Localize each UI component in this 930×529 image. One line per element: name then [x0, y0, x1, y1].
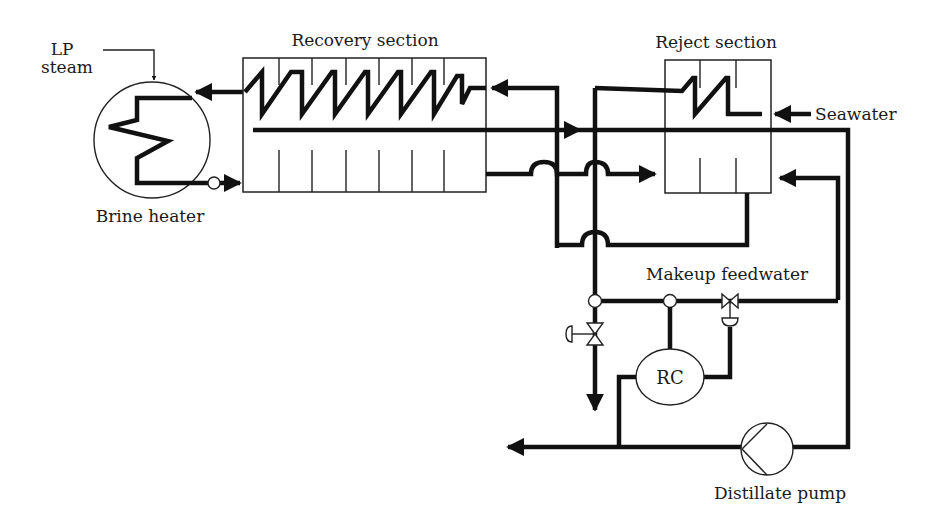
lp-steam-line [103, 50, 154, 80]
rc-controller[interactable]: RC [636, 349, 704, 405]
reject-section-box [665, 60, 771, 193]
sensor-node-icon [208, 177, 220, 189]
brine-transfer-line [486, 162, 655, 174]
lp-steam-label-line1: LP [51, 39, 74, 59]
brine-heater-coil [109, 98, 205, 183]
brine-heater-label: Brine heater [96, 206, 206, 226]
controller-to-distillate-line [619, 377, 636, 447]
control-signal-line [704, 327, 730, 377]
lp-steam-label-line2: steam [41, 57, 93, 77]
recovery-section-label: Recovery section [291, 30, 438, 50]
recovery-section [243, 58, 486, 192]
valve-actuator-icon [722, 318, 738, 326]
valve-handwheel-icon [566, 326, 572, 342]
rc-controller-label: RC [656, 367, 683, 388]
reject-section-label: Reject section [655, 32, 777, 52]
distillate-pump-icon[interactable] [741, 423, 793, 475]
junction-node-icon [589, 295, 602, 308]
sensor-node-icon [664, 295, 677, 308]
brine-heater [94, 82, 210, 198]
manual-valve-icon[interactable] [566, 323, 603, 345]
distillate-pump-label: Distillate pump [714, 483, 846, 503]
seawater-label: Seawater [815, 104, 897, 124]
brine-recycle-line [557, 193, 747, 245]
msf-process-diagram: LP steam Brine heater Recovery section R… [0, 0, 930, 529]
brine-recycle-to-recovery-line [492, 88, 557, 248]
makeup-feedwater-label: Makeup feedwater [646, 264, 809, 284]
